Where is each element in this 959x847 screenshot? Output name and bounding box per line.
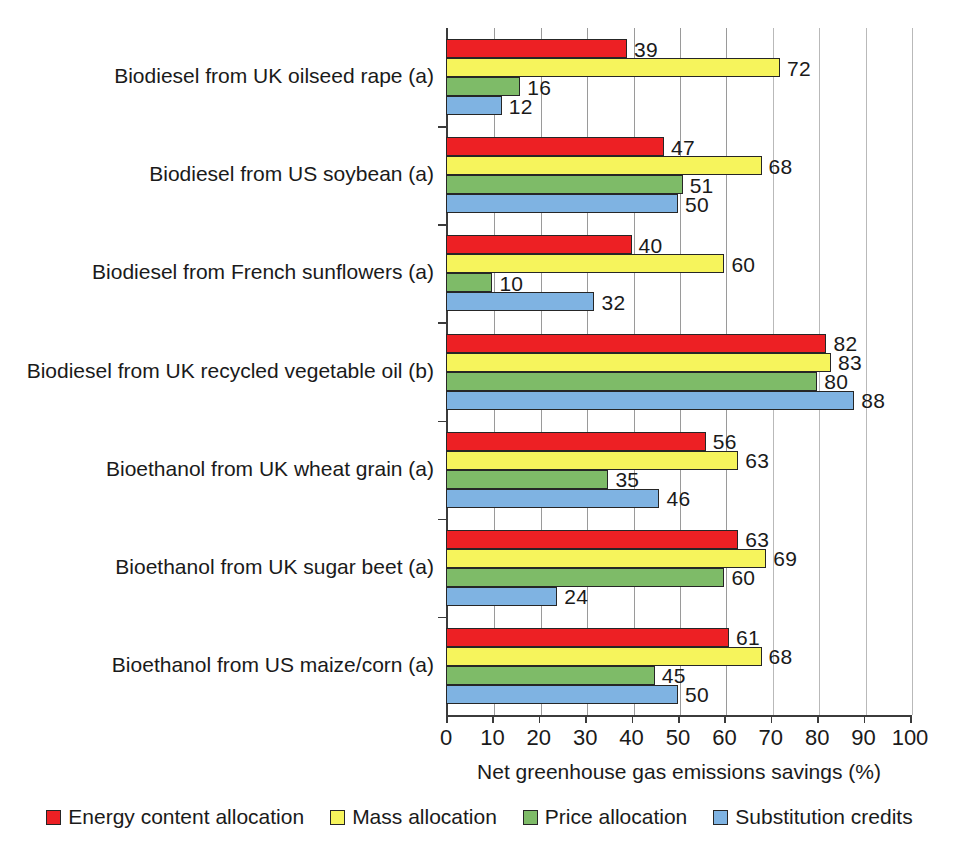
x-tick-40 — [632, 715, 634, 723]
x-tick-30 — [585, 715, 587, 723]
bar — [446, 175, 683, 194]
y-tick-5 — [438, 519, 446, 521]
chart-legend: Energy content allocationMass allocation… — [0, 805, 959, 829]
x-tick-label-80: 80 — [805, 727, 829, 749]
legend-label: Energy content allocation — [68, 805, 304, 829]
bar — [446, 58, 780, 77]
bar — [446, 470, 608, 489]
x-tick-100 — [910, 715, 912, 723]
category-label: Biodiesel from US soybean (a) — [4, 162, 434, 186]
legend-label: Price allocation — [545, 805, 687, 829]
legend-item[interactable]: Mass allocation — [330, 805, 497, 829]
bar-value-label: 63 — [745, 529, 769, 550]
bar — [446, 137, 664, 156]
legend-label: Substitution credits — [735, 805, 912, 829]
bar — [446, 549, 766, 568]
x-tick-20 — [539, 715, 541, 723]
bar-value-label: 50 — [685, 684, 709, 705]
x-tick-60 — [724, 715, 726, 723]
y-tick-1 — [438, 126, 446, 128]
bar — [446, 39, 627, 58]
bar — [446, 254, 724, 273]
bar — [446, 273, 492, 292]
bar-value-label: 88 — [861, 390, 885, 411]
legend-item[interactable]: Energy content allocation — [46, 805, 304, 829]
y-tick-6 — [438, 617, 446, 619]
bar-value-label: 56 — [713, 431, 737, 452]
bar — [446, 647, 762, 666]
bar — [446, 194, 678, 213]
bar — [446, 372, 817, 391]
x-tick-label-70: 70 — [759, 727, 783, 749]
bar — [446, 628, 729, 647]
bar-value-label: 68 — [769, 646, 793, 667]
legend-label: Mass allocation — [352, 805, 497, 829]
bar-value-label: 12 — [509, 95, 533, 116]
bar — [446, 334, 826, 353]
bar-value-label: 32 — [601, 291, 625, 312]
x-tick-label-20: 20 — [527, 727, 551, 749]
bar-chart: Net greenhouse gas emissions savings (%)… — [0, 0, 959, 847]
x-tick-label-0: 0 — [440, 727, 452, 749]
bar — [446, 353, 831, 372]
bar — [446, 292, 594, 311]
bar — [446, 451, 738, 470]
x-tick-0 — [446, 715, 448, 723]
bar-value-label: 47 — [671, 136, 695, 157]
legend-swatch-icon — [330, 810, 345, 825]
y-tick-3 — [438, 322, 446, 324]
bar-value-label: 69 — [773, 548, 797, 569]
legend-swatch-icon — [523, 810, 538, 825]
category-label: Bioethanol from UK sugar beet (a) — [4, 555, 434, 579]
bar — [446, 96, 502, 115]
legend-item[interactable]: Price allocation — [523, 805, 687, 829]
x-tick-80 — [817, 715, 819, 723]
bar-value-label: 60 — [731, 253, 755, 274]
x-tick-label-50: 50 — [666, 727, 690, 749]
legend-item[interactable]: Substitution credits — [713, 805, 912, 829]
bar-value-label: 39 — [634, 38, 658, 59]
category-label: Biodiesel from French sunflowers (a) — [4, 260, 434, 284]
bar-value-label: 50 — [685, 193, 709, 214]
x-tick-label-30: 30 — [573, 727, 597, 749]
x-tick-label-10: 10 — [480, 727, 504, 749]
x-tick-70 — [771, 715, 773, 723]
bar-value-label: 72 — [787, 57, 811, 78]
bar — [446, 530, 738, 549]
bar-value-label: 68 — [769, 155, 793, 176]
bar-value-label: 80 — [824, 371, 848, 392]
bar-value-label: 63 — [745, 450, 769, 471]
x-tick-label-60: 60 — [712, 727, 736, 749]
x-tick-50 — [678, 715, 680, 723]
bar — [446, 489, 659, 508]
bar — [446, 666, 655, 685]
x-tick-label-90: 90 — [851, 727, 875, 749]
gridline-100 — [912, 28, 913, 715]
x-axis-title: Net greenhouse gas emissions savings (%) — [446, 760, 912, 784]
bar-value-label: 45 — [662, 665, 686, 686]
bar — [446, 685, 678, 704]
x-tick-label-40: 40 — [619, 727, 643, 749]
category-label: Bioethanol from UK wheat grain (a) — [4, 457, 434, 481]
y-tick-4 — [438, 421, 446, 423]
x-tick-label-100: 100 — [892, 727, 929, 749]
bar — [446, 235, 632, 254]
category-label: Biodiesel from UK oilseed rape (a) — [4, 64, 434, 88]
bar-value-label: 24 — [564, 586, 588, 607]
category-label: Biodiesel from UK recycled vegetable oil… — [4, 359, 434, 383]
bar-value-label: 46 — [666, 488, 690, 509]
x-tick-10 — [492, 715, 494, 723]
bar-value-label: 40 — [639, 234, 663, 255]
bar — [446, 156, 762, 175]
bar-value-label: 35 — [615, 469, 639, 490]
y-tick-2 — [438, 224, 446, 226]
bar-value-label: 60 — [731, 567, 755, 588]
legend-swatch-icon — [713, 810, 728, 825]
category-label: Bioethanol from US maize/corn (a) — [4, 653, 434, 677]
gridline-90 — [866, 28, 867, 715]
bar-value-label: 10 — [499, 272, 523, 293]
bar — [446, 432, 706, 451]
x-tick-90 — [864, 715, 866, 723]
bar — [446, 391, 854, 410]
bar-value-label: 61 — [736, 627, 760, 648]
